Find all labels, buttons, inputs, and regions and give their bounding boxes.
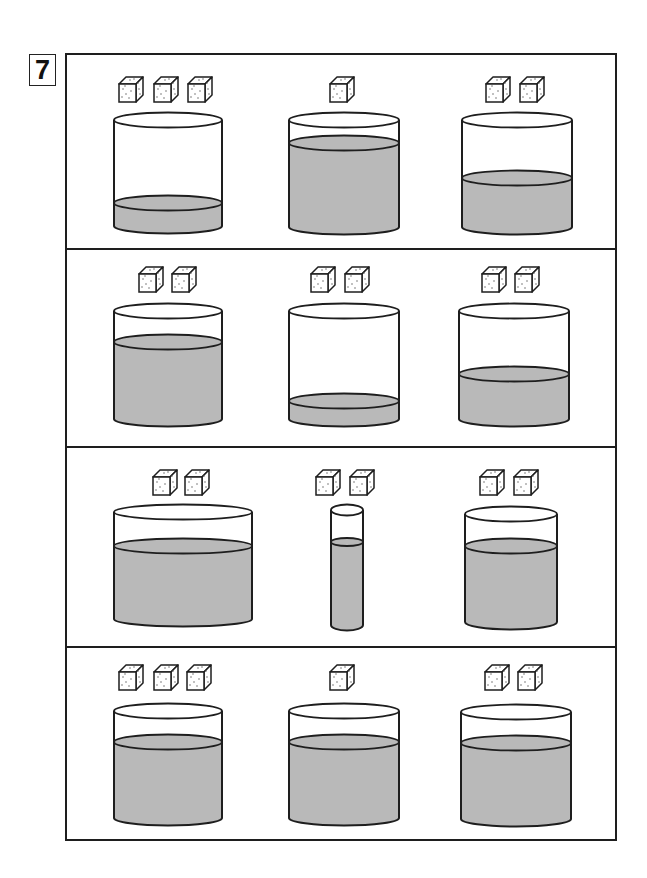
cube-front-face [485, 672, 502, 690]
cube-dot [128, 97, 129, 98]
cube-dot [534, 78, 535, 79]
cube-dot [159, 673, 160, 674]
cube-dot [174, 286, 175, 287]
cube-dot [201, 666, 202, 667]
sugar-cube-group [330, 77, 354, 102]
cube-dot [325, 268, 326, 269]
cube-dot [129, 667, 130, 668]
cube-dot [139, 681, 140, 682]
cube-dot [530, 79, 531, 80]
puzzle-cell [114, 267, 222, 427]
cube-dot [491, 287, 492, 288]
cube-dot [208, 93, 209, 94]
cube-dot [339, 97, 340, 98]
water-body [114, 742, 222, 826]
cube-dot [159, 85, 160, 86]
water-surface [289, 136, 399, 151]
cube-dot [122, 88, 123, 89]
cube-dot [335, 481, 336, 482]
cube-dot [526, 93, 527, 94]
cube-dot [124, 673, 125, 674]
cube-dot [194, 93, 195, 94]
cube-front-face [154, 84, 171, 102]
container-rim [459, 304, 569, 319]
glass-container [289, 113, 399, 235]
cube-dot [142, 278, 143, 279]
cube-dot [156, 96, 157, 97]
cube-dot [182, 269, 183, 270]
cube-dot [532, 666, 533, 667]
cube-dot [355, 478, 356, 479]
cube-dot [314, 278, 315, 279]
sugar-cube-group [139, 267, 196, 292]
cube-dot [149, 269, 150, 270]
water-surface [289, 394, 399, 409]
cube-dot [499, 481, 500, 482]
cube-dot [356, 486, 357, 487]
cube-dot [178, 283, 179, 284]
puzzle-cell [289, 77, 399, 235]
cube-dot [186, 268, 187, 269]
cube-dot [369, 481, 370, 482]
cube-dot [128, 685, 129, 686]
sugar-cube-icon [518, 665, 542, 690]
puzzle-row-1 [114, 77, 572, 235]
cube-dot [163, 685, 164, 686]
cube-dot [370, 486, 371, 487]
glass-container [459, 304, 569, 427]
sugar-cube-icon [119, 665, 143, 690]
cube-dot [193, 681, 194, 682]
cube-dot [494, 685, 495, 686]
container-rim [465, 507, 557, 522]
sugar-cube-icon [515, 267, 539, 292]
cube-dot [356, 280, 357, 281]
water-body [114, 546, 252, 627]
sugar-cube-icon [482, 267, 506, 292]
cube-dot [491, 483, 492, 484]
cube-dot [198, 678, 199, 679]
cube-dot [336, 93, 337, 94]
cube-dot [354, 287, 355, 288]
cube-dot [523, 490, 524, 491]
cube-dot [485, 478, 486, 479]
cube-dot [153, 268, 154, 269]
cube-dot [521, 283, 522, 284]
container-rim [289, 113, 399, 128]
cube-dot [125, 681, 126, 682]
cube-dot [529, 268, 530, 269]
wide-glass-container [114, 505, 252, 627]
cube-dot [359, 268, 360, 269]
cube-dot [499, 666, 500, 667]
container-rim [289, 304, 399, 319]
cube-dot [517, 481, 518, 482]
cube-front-face [520, 84, 537, 102]
cube-dot [194, 490, 195, 491]
puzzle-cell [114, 77, 222, 234]
cube-dot [183, 280, 184, 281]
cube-front-face [187, 672, 204, 690]
cube-dot [501, 278, 502, 279]
sugar-cube-icon [185, 470, 209, 495]
cube-dot [516, 489, 517, 490]
cube-dot [533, 272, 534, 273]
cube-dot [198, 79, 199, 80]
cube-dot [498, 475, 499, 476]
water-surface [114, 539, 252, 554]
cube-dot [181, 287, 182, 288]
water-body [462, 178, 572, 235]
glass-container [114, 304, 222, 427]
sugar-cube-group [330, 665, 354, 690]
cube-dot [538, 681, 539, 682]
water-surface [461, 736, 571, 751]
cube-dot [129, 79, 130, 80]
cube-dot [488, 676, 489, 677]
cube-dot [330, 471, 331, 472]
cube-dot [503, 670, 504, 671]
sugar-cube-group [485, 665, 542, 690]
sugar-cube-icon [172, 267, 196, 292]
cube-dot [330, 278, 331, 279]
cube-dot [191, 88, 192, 89]
water-surface [465, 539, 557, 554]
container-rim [289, 704, 399, 719]
cube-dot [163, 472, 164, 473]
